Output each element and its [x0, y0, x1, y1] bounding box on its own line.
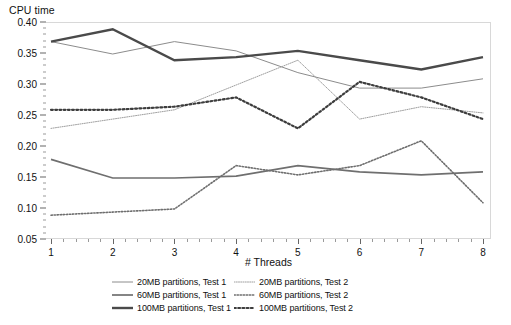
x-minor-tick [88, 239, 89, 242]
x-minor-tick [63, 239, 64, 242]
x-minor-tick [100, 239, 101, 242]
legend-label: 60MB partitions, Test 1 [137, 290, 226, 300]
x-minor-tick [397, 239, 398, 242]
x-minor-tick [286, 239, 287, 242]
y-axis-tick-labels: 0.400.350.300.250.200.150.100.05 [0, 22, 46, 239]
y-tick-label: 0.35 [18, 48, 37, 59]
x-minor-tick [137, 239, 138, 242]
y-tick-label: 0.15 [18, 172, 37, 183]
x-tick-mark [298, 239, 299, 244]
series-lines [46, 23, 491, 240]
x-minor-tick [199, 239, 200, 242]
legend-label: 20MB partitions, Test 2 [259, 277, 348, 287]
x-minor-tick [261, 239, 262, 242]
x-tick-mark [113, 239, 114, 244]
solid-line-swatch-icon [112, 279, 133, 285]
legend-item[interactable]: 20MB partitions, Test 2 [234, 277, 412, 287]
x-minor-tick [409, 239, 410, 242]
x-minor-tick [162, 239, 163, 242]
legend-label: 60MB partitions, Test 2 [259, 290, 348, 300]
series-line [51, 159, 483, 178]
x-minor-tick [125, 239, 126, 242]
y-tick-label: 0.25 [18, 110, 37, 121]
x-minor-tick [187, 239, 188, 242]
x-tick-mark [51, 239, 52, 244]
series-line [51, 29, 483, 69]
x-minor-tick [211, 239, 212, 242]
series-line [51, 60, 483, 128]
cpu-time-line-chart: CPU time 0.400.350.300.250.200.150.100.0… [0, 0, 511, 325]
x-minor-tick [273, 239, 274, 242]
x-tick-mark [236, 239, 237, 244]
x-minor-tick [458, 239, 459, 242]
x-tick-mark [483, 239, 484, 244]
x-minor-tick [323, 239, 324, 242]
legend-item[interactable]: 60MB partitions, Test 2 [234, 290, 412, 300]
y-tick-label: 0.40 [18, 17, 37, 28]
x-axis-title: # Threads [46, 256, 491, 268]
x-minor-tick [347, 239, 348, 242]
x-tick-mark [421, 239, 422, 244]
legend-item[interactable]: 100MB partitions, Test 1 [112, 303, 234, 313]
y-tick-label: 0.30 [18, 79, 37, 90]
dotted-line-swatch-icon [234, 292, 255, 298]
legend-item[interactable]: 60MB partitions, Test 1 [112, 290, 234, 300]
legend-label: 100MB partitions, Test 1 [137, 303, 231, 313]
legend-item[interactable]: 100MB partitions, Test 2 [234, 303, 412, 313]
x-minor-tick [384, 239, 385, 242]
x-minor-tick [335, 239, 336, 242]
y-tick-label: 0.20 [18, 141, 37, 152]
series-line [51, 82, 483, 128]
y-tick-label: 0.10 [18, 203, 37, 214]
x-minor-tick [248, 239, 249, 242]
x-minor-tick [76, 239, 77, 242]
dotted-line-swatch-icon [234, 305, 255, 311]
solid-line-swatch-icon [112, 305, 133, 311]
legend-item[interactable]: 20MB partitions, Test 1 [112, 277, 234, 287]
x-tick-mark [174, 239, 175, 244]
x-minor-tick [150, 239, 151, 242]
dotted-line-swatch-icon [234, 279, 255, 285]
x-minor-tick [372, 239, 373, 242]
x-tick-mark [360, 239, 361, 244]
x-minor-tick [434, 239, 435, 242]
x-minor-tick [446, 239, 447, 242]
x-minor-tick [310, 239, 311, 242]
legend-label: 100MB partitions, Test 2 [259, 303, 353, 313]
x-minor-tick [224, 239, 225, 242]
y-axis-title: CPU time [9, 4, 55, 16]
legend-label: 20MB partitions, Test 1 [137, 277, 226, 287]
y-tick-label: 0.05 [18, 234, 37, 245]
solid-line-swatch-icon [112, 292, 133, 298]
series-line [51, 42, 483, 89]
plot-area [46, 22, 491, 239]
x-minor-tick [471, 239, 472, 242]
chart-legend: 20MB partitions, Test 120MB partitions, … [112, 275, 412, 314]
